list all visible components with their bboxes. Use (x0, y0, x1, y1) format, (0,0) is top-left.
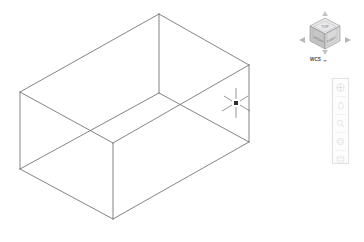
arrow-left-icon (299, 37, 305, 43)
pan-button[interactable] (333, 97, 348, 114)
edge-inner-center-to-right (159, 93, 249, 142)
showmotion-button[interactable] (333, 151, 348, 168)
cursor-pickbox (234, 101, 238, 105)
cad-application-window: TOP FRONT RIGHT WCS (0, 0, 364, 242)
edge-top-back-to-left (20, 14, 159, 92)
chevron-down-icon (323, 60, 327, 62)
arrow-right-icon (345, 37, 351, 43)
arrow-up-icon (322, 11, 328, 16)
viewcube-label-top: TOP (321, 25, 329, 29)
orbit-button[interactable] (333, 133, 348, 150)
crosshair-iso-right (240, 105, 250, 111)
edge-top-back-to-right (159, 14, 249, 65)
hand-icon (336, 101, 345, 110)
viewcube-cube[interactable]: TOP FRONT RIGHT (296, 10, 354, 58)
coordinate-system-dropdown[interactable]: WCS (310, 58, 327, 63)
crosshair-iso-left (222, 105, 232, 111)
wcs-label: WCS (310, 58, 321, 63)
edge-bottom-right-to-front (113, 142, 249, 219)
edge-top-left-to-front (20, 92, 113, 143)
edge-inner-center-to-left (20, 93, 159, 169)
steering-wheels-button[interactable] (333, 79, 348, 96)
navigation-bar[interactable] (332, 78, 349, 164)
wheel-icon (336, 83, 345, 92)
edge-bottom-left-to-front (20, 169, 113, 219)
magnifier-icon (336, 119, 345, 128)
edge-top-right-to-front (113, 65, 249, 143)
zoom-button[interactable] (333, 115, 348, 132)
crosshair-iso-upleft (224, 96, 232, 101)
orbit-icon (336, 137, 345, 146)
viewcube-widget[interactable]: TOP FRONT RIGHT WCS (296, 10, 354, 72)
arrow-down-icon (322, 50, 328, 55)
film-icon (336, 155, 345, 164)
crosshair-iso-upright (240, 96, 248, 101)
